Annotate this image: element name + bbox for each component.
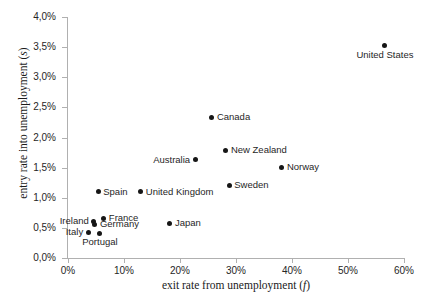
- y-tick-label: 3,0%: [8, 71, 56, 82]
- x-axis-title-text: exit rate from unemployment (: [162, 279, 303, 291]
- data-point-label: New Zealand: [231, 145, 287, 155]
- x-axis-title-tail: ): [306, 279, 310, 291]
- data-point-label: Portugal: [82, 237, 117, 247]
- scatter-chart: entry rate into unemployment (s) exit ra…: [0, 0, 429, 303]
- x-tick-label: 0%: [43, 265, 93, 276]
- data-point-label: Germany: [100, 219, 139, 229]
- x-tick-label: 30%: [211, 265, 261, 276]
- x-tick-label: 40%: [267, 265, 317, 276]
- y-tick-label: 0,5%: [8, 222, 56, 233]
- x-tick-label: 10%: [99, 265, 149, 276]
- x-tick-mark: [236, 258, 237, 263]
- data-point-label: United States: [356, 50, 413, 60]
- y-tick-mark: [62, 258, 67, 259]
- data-point-label: Norway: [287, 162, 319, 172]
- data-point-label: Japan: [175, 218, 201, 228]
- x-tick-mark: [68, 258, 69, 263]
- y-tick-label: 0,0%: [8, 252, 56, 263]
- data-point-label: Italy: [66, 227, 83, 237]
- x-tick-mark: [124, 258, 125, 263]
- y-tick-mark: [62, 47, 67, 48]
- y-tick-label: 4,0%: [8, 11, 56, 22]
- data-point: [193, 157, 198, 162]
- data-point: [227, 183, 232, 188]
- x-tick-mark: [404, 258, 405, 263]
- data-point-label: Ireland: [60, 216, 89, 226]
- data-point: [209, 115, 214, 120]
- data-point-label: Australia: [153, 155, 190, 165]
- y-tick-label: 2,0%: [8, 132, 56, 143]
- data-point: [86, 230, 91, 235]
- data-point: [96, 189, 101, 194]
- x-tick-mark: [180, 258, 181, 263]
- x-tick-label: 60%: [379, 265, 429, 276]
- y-tick-mark: [62, 77, 67, 78]
- x-axis-title: exit rate from unemployment (f): [68, 279, 404, 291]
- x-tick-label: 20%: [155, 265, 205, 276]
- y-tick-mark: [62, 17, 67, 18]
- y-tick-mark: [62, 138, 67, 139]
- data-point-label: Sweden: [234, 180, 268, 190]
- y-tick-label: 1,0%: [8, 192, 56, 203]
- x-tick-label: 50%: [323, 265, 373, 276]
- y-tick-label: 1,5%: [8, 162, 56, 173]
- y-tick-mark: [62, 198, 67, 199]
- y-tick-mark: [62, 107, 67, 108]
- x-tick-mark: [348, 258, 349, 263]
- y-tick-mark: [62, 168, 67, 169]
- y-tick-label: 3,5%: [8, 41, 56, 52]
- data-point-label: United Kingdom: [146, 187, 214, 197]
- data-point-label: Canada: [217, 112, 250, 122]
- data-point-label: Spain: [103, 187, 127, 197]
- y-tick-label: 2,5%: [8, 101, 56, 112]
- x-tick-mark: [292, 258, 293, 263]
